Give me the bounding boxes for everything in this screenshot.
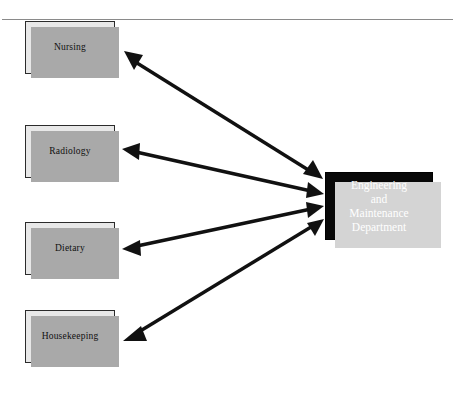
central-label-line-3: Maintenance (349, 206, 408, 220)
connector-radiology-engineering[interactable] (122, 143, 324, 198)
central-box-engineering-maintenance[interactable]: Engineering and Maintenance Department (325, 172, 433, 240)
central-label-line-4: Department (352, 220, 406, 234)
box-shadow-radiology (31, 131, 119, 182)
department-box-radiology[interactable]: Radiology (25, 125, 115, 178)
box-shadow-dietary (31, 228, 119, 279)
central-label-line-1: Engineering (351, 178, 407, 192)
department-box-dietary[interactable]: Dietary (25, 222, 115, 275)
box-shadow-housekeeping (31, 316, 119, 367)
department-label-dietary: Dietary (55, 244, 85, 254)
department-box-housekeeping[interactable]: Housekeeping (25, 310, 115, 363)
department-label-nursing: Nursing (54, 43, 86, 53)
connector-dietary-engineering[interactable] (122, 202, 324, 256)
connector-housekeeping-engineering[interactable] (123, 219, 324, 341)
diagram-canvas: Nursing Radiology Dietary Housekeeping E… (0, 0, 455, 393)
department-label-radiology: Radiology (49, 147, 90, 157)
central-label-line-2: and (371, 192, 388, 206)
connector-nursing-engineering[interactable] (124, 51, 323, 179)
box-shadow-nursing (31, 27, 119, 78)
department-label-housekeeping: Housekeeping (42, 332, 99, 342)
department-box-nursing[interactable]: Nursing (25, 21, 115, 74)
